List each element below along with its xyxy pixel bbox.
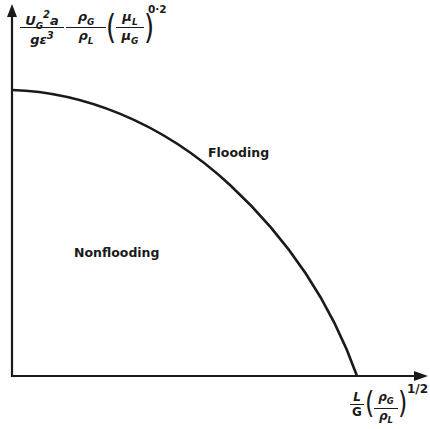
x-frac2-numerator: ρG: [374, 390, 398, 408]
x-label-fraction-2: ρG ρL: [374, 390, 398, 428]
x-frac2-num-base: ρ: [378, 390, 387, 404]
y-open-paren: (: [106, 8, 116, 47]
y-frac1-denominator: gε3: [20, 28, 64, 48]
y-frac2-num-base: ρ: [78, 9, 87, 24]
y-exponent: 0·2: [148, 3, 167, 15]
y-frac3-den-sub: G: [131, 36, 138, 46]
x-frac2-num-sub: G: [387, 396, 394, 406]
x-frac2-den-base: ρ: [379, 409, 388, 423]
x-label-fraction-1: L G: [350, 390, 364, 419]
x-close-paren: ): [398, 386, 407, 421]
y-frac1-num-sup: 2: [43, 9, 50, 20]
flooding-boundary-curve: [12, 90, 357, 376]
y-frac2-numerator: ρG: [66, 4, 106, 26]
y-frac3-num-base: μ: [122, 9, 132, 24]
y-frac3-num-sub: L: [132, 17, 138, 27]
y-frac2-num-sub: G: [87, 17, 94, 27]
y-frac3-den-base: μ: [122, 28, 132, 43]
y-frac2-den-base: ρ: [78, 28, 87, 43]
region-label-flooding: Flooding: [208, 145, 269, 160]
y-frac1-num-base: U: [25, 13, 36, 28]
x-axis-arrow-icon: [414, 371, 428, 381]
y-axis-label: UG2a gε3 ρG ρL ( μL μG ) 0·2: [20, 4, 220, 64]
y-frac1-den-base: gε: [30, 32, 47, 47]
y-frac1-numerator: UG2a: [20, 4, 64, 26]
x-exponent: 1/2: [407, 382, 428, 396]
y-frac3-numerator: μL: [116, 4, 144, 26]
y-axis-arrow-icon: [7, 4, 17, 17]
y-frac1-num-rest: a: [50, 13, 59, 28]
x-frac1-denominator: G: [350, 405, 364, 419]
diagram-canvas: [0, 0, 430, 429]
y-frac1-den-sup: 3: [47, 30, 54, 41]
y-label-fraction-1: UG2a gε3: [20, 4, 64, 48]
x-frac1-numerator: L: [350, 390, 364, 404]
x-frac2-den-sub: L: [388, 416, 393, 426]
y-frac2-denominator: ρL: [66, 28, 106, 49]
region-label-nonflooding: Nonflooding: [74, 245, 159, 260]
y-label-fraction-2: ρG ρL: [66, 4, 106, 49]
x-open-paren: (: [365, 386, 374, 421]
y-frac2-den-sub: L: [88, 36, 94, 46]
y-frac3-denominator: μG: [116, 28, 144, 49]
y-label-fraction-3: μL μG: [116, 4, 144, 49]
x-frac2-denominator: ρL: [374, 409, 398, 427]
x-axis-label: L G ( ρG ρL ) 1/2: [350, 384, 430, 428]
